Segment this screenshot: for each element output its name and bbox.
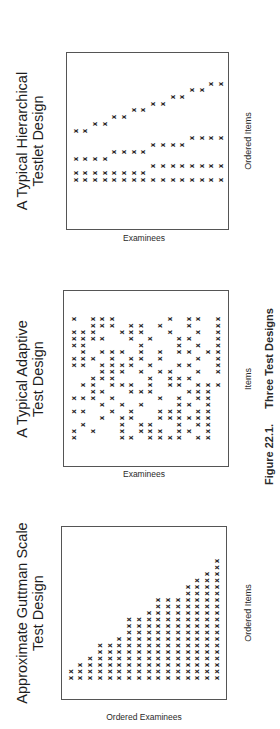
x-mark: x	[116, 668, 123, 675]
x-mark: x	[185, 649, 192, 656]
x-mark: x	[107, 675, 114, 682]
x-mark: x	[126, 649, 133, 656]
x-mark: x	[165, 623, 172, 630]
x-mark: x	[138, 401, 145, 408]
x-mark: x	[175, 636, 182, 643]
x-mark: x	[126, 629, 133, 636]
x-mark: x	[136, 623, 143, 630]
x-mark: x	[71, 408, 78, 415]
x-mark: x	[121, 170, 128, 177]
x-mark: x	[185, 642, 192, 649]
x-mark: x	[214, 577, 221, 584]
figure-title: Three Test Designs	[263, 308, 275, 409]
x-mark: x	[165, 655, 172, 662]
x-mark: x	[121, 177, 128, 184]
x-mark: x	[116, 642, 123, 649]
x-mark: x	[176, 349, 183, 356]
x-mark: x	[194, 655, 201, 662]
x-mark: x	[155, 675, 162, 682]
x-mark: x	[208, 163, 215, 170]
x-mark: x	[179, 163, 186, 170]
x-mark: x	[195, 316, 202, 323]
x-mark: x	[189, 87, 196, 94]
x-mark: x	[194, 623, 201, 630]
x-mark: x	[136, 649, 143, 656]
guttman-panel-title: Approximate Guttman Scale Test Design	[14, 503, 46, 723]
x-mark: x	[146, 675, 153, 682]
x-mark: x	[214, 564, 221, 571]
x-mark: x	[185, 623, 192, 630]
x-mark: x	[165, 675, 172, 682]
x-mark: x	[185, 636, 192, 643]
x-mark: x	[146, 668, 153, 675]
x-mark: x	[199, 163, 206, 170]
x-mark: x	[99, 349, 106, 356]
x-mark: x	[208, 81, 215, 88]
x-mark: x	[175, 655, 182, 662]
x-mark: x	[97, 642, 104, 649]
x-mark: x	[194, 610, 201, 617]
x-mark: x	[131, 177, 138, 184]
x-mark: x	[165, 662, 172, 669]
x-mark: x	[189, 135, 196, 142]
x-mark: x	[175, 629, 182, 636]
x-mark: x	[109, 395, 116, 402]
x-mark: x	[82, 177, 89, 184]
x-mark: x	[165, 610, 172, 617]
x-mark: x	[136, 675, 143, 682]
x-mark: x	[155, 629, 162, 636]
x-mark: x	[167, 329, 174, 336]
x-mark: x	[194, 642, 201, 649]
x-mark: x	[185, 655, 192, 662]
x-mark: x	[97, 649, 104, 656]
x-mark: x	[111, 177, 118, 184]
x-mark: x	[157, 415, 164, 422]
x-mark: x	[167, 415, 174, 422]
x-mark: x	[204, 642, 211, 649]
x-mark: x	[170, 177, 177, 184]
adaptive-x-axis-label: Items	[243, 329, 253, 429]
x-mark: x	[102, 121, 109, 128]
x-mark: x	[215, 382, 222, 389]
hierarchical-title-line2: Testlet Design	[30, 31, 46, 251]
x-mark: x	[199, 135, 206, 142]
x-mark: x	[146, 610, 153, 617]
x-mark: x	[204, 655, 211, 662]
x-mark: x	[215, 368, 222, 375]
x-mark: x	[109, 322, 116, 329]
x-mark: x	[176, 382, 183, 389]
x-mark: x	[77, 668, 84, 675]
x-mark: x	[136, 655, 143, 662]
x-mark: x	[116, 662, 123, 669]
x-mark: x	[146, 616, 153, 623]
x-mark: x	[140, 177, 147, 184]
x-mark: x	[119, 434, 126, 441]
x-mark: x	[138, 428, 145, 435]
x-mark: x	[160, 142, 167, 149]
x-mark: x	[165, 629, 172, 636]
x-mark: x	[160, 177, 167, 184]
x-mark: x	[208, 177, 215, 184]
x-mark: x	[199, 87, 206, 94]
x-mark: x	[150, 177, 157, 184]
x-mark: x	[194, 597, 201, 604]
guttman-title-line2: Test Design	[30, 503, 46, 723]
x-mark: x	[186, 375, 193, 382]
x-mark: x	[119, 349, 126, 356]
x-mark: x	[126, 636, 133, 643]
x-mark: x	[195, 434, 202, 441]
x-mark: x	[204, 623, 211, 630]
x-mark: x	[92, 156, 99, 163]
guttman-plot: xxxxxxxxxxxxxxxxxxxxxxxxxxxxxxxxxxxxxxxx…	[61, 526, 227, 700]
x-mark: x	[189, 177, 196, 184]
x-mark: x	[186, 322, 193, 329]
x-mark: x	[80, 408, 87, 415]
x-mark: x	[71, 362, 78, 369]
x-mark: x	[155, 649, 162, 656]
x-mark: x	[185, 616, 192, 623]
x-mark: x	[71, 395, 78, 402]
x-mark: x	[121, 149, 128, 156]
x-mark: x	[185, 584, 192, 591]
x-mark: x	[170, 142, 177, 149]
x-mark: x	[214, 662, 221, 669]
